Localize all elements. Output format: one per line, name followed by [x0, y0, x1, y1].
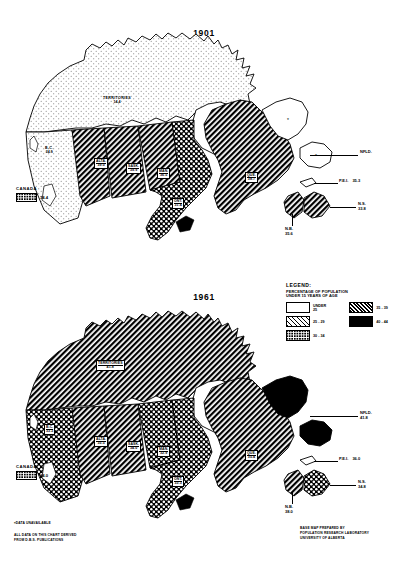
canada-summary-1961: CANADA 34.0	[16, 464, 48, 480]
legend-swatch-40-44	[349, 316, 373, 327]
canada-map-1901: * *	[0, 0, 408, 290]
label-pei-1961: P.E.I. 36.0	[339, 457, 360, 462]
note-base-line3: UNIVERSITY OF ALBERTA	[300, 536, 345, 540]
leader-nb-1961	[292, 492, 293, 504]
note-source-line2: FROM D.B.S. PUBLICATIONS	[14, 538, 63, 542]
great-lakes-1901	[176, 216, 194, 232]
label-alberta-1901: ALTA. 39.0	[94, 158, 108, 169]
asterisk-labrador-1901: *	[287, 117, 289, 123]
label-territories-1961: TERRITORIES 41.8	[96, 360, 125, 371]
label-ontario-1961: ONT. 33.3	[172, 476, 184, 487]
legend-swatch-30-34	[286, 330, 310, 341]
label-nb-1961: N.B. 38.0	[285, 505, 293, 515]
note-base-line1: BASE MAP PREPARED BY	[300, 526, 345, 530]
legend-label-25-29: 25 - 29	[313, 320, 324, 324]
region-new-brunswick-1961	[284, 470, 304, 496]
leader-nfld-1901	[310, 155, 358, 156]
canada-label-1901: CANADA	[16, 186, 48, 191]
label-ns-1901: N.S. 33.8	[358, 202, 366, 212]
label-saskatchewan-1961: SASK. 34.0	[126, 441, 141, 452]
note-data-unavailable: *DATA UNAVAILABLE	[14, 521, 51, 527]
leader-ns-1961	[330, 485, 356, 486]
legend-swatch-under-25	[286, 302, 310, 313]
chart-sheet: 1901	[0, 0, 408, 575]
region-nova-scotia-1901	[304, 192, 330, 218]
label-ns-1961: N.S. 34.8	[358, 480, 366, 490]
canada-summary-1901: CANADA 34.4	[16, 186, 48, 202]
label-quebec-1901: QUE. 38.7	[245, 172, 258, 183]
label-saskatchewan-1901: SASK. 39.9	[126, 163, 141, 174]
leader-pei-1961	[314, 461, 338, 462]
label-nb-1901: N.B. 35.6	[285, 227, 293, 237]
note-data-unavailable-text: DATA UNAVAILABLE	[16, 521, 51, 525]
legend-label-30-34: 30 - 34	[313, 334, 324, 338]
canada-swatch-1961	[16, 471, 37, 480]
label-bc-1961: B.C. 33.2	[44, 424, 55, 435]
note-source-line1: ALL DATA ON THIS CHART DERIVED	[14, 533, 77, 537]
legend-label-40-44: 40 - 44	[376, 320, 387, 324]
legend-label-under-25-line2: 25	[313, 308, 326, 312]
label-nfld-1961: NFLD. 41.8	[360, 411, 372, 421]
legend-entry-30-34: 30 - 34	[286, 330, 342, 341]
legend-title: LEGEND:	[286, 282, 404, 288]
region-new-brunswick-1901	[284, 192, 304, 218]
map-panel-1901: 1901	[0, 0, 408, 290]
legend-label-35-39: 35 - 39	[376, 306, 387, 310]
label-manitoba-1901: MAN. 36.5	[157, 168, 170, 179]
leader-pei-1901	[314, 183, 338, 184]
note-base-map: BASE MAP PREPARED BY POPULATION RESEARCH…	[300, 526, 369, 541]
region-nova-scotia-1961	[304, 470, 330, 496]
legend-swatch-35-39	[349, 302, 373, 313]
leader-nfld-1961	[310, 416, 358, 417]
asterisk-newfoundland-1901: *	[315, 153, 317, 159]
label-alberta-1961: ALTA. 35.5	[94, 436, 108, 447]
legend-entry-35-39: 35 - 39	[349, 302, 404, 313]
canada-label-1961: CANADA	[16, 464, 48, 469]
canada-value-1961: 34.0	[40, 473, 48, 478]
label-bc-1901: B.C. 24.9	[45, 146, 54, 154]
legend-swatch-25-29	[286, 316, 310, 327]
label-pei-1901: P.E.I. 35.3	[339, 179, 360, 184]
legend: LEGEND: PERCENTAGE OF POPULATION UNDER 1…	[286, 282, 404, 341]
leader-nb-1901	[292, 214, 293, 226]
legend-entries: UNDER 25 35 - 39 25 - 29 40 - 44	[286, 302, 404, 341]
legend-entry-under-25: UNDER 25	[286, 302, 342, 313]
legend-entry-40-44: 40 - 44	[349, 316, 404, 327]
label-territories-1901: TERRITORIES 14.4	[103, 96, 131, 104]
note-base-line2: POPULATION RESEARCH LABORATORY	[300, 531, 369, 535]
leader-ns-1901	[330, 207, 356, 208]
great-lakes-1961	[176, 494, 194, 510]
label-ontario-1901: ONT. 31.4	[172, 198, 184, 209]
legend-subtitle-line2: UNDER 15 YEARS OF AGE	[286, 293, 338, 298]
region-newfoundland-island-1961	[300, 420, 332, 446]
canada-value-1901: 34.4	[40, 195, 48, 200]
label-nfld-1901: NFLD.	[360, 150, 372, 155]
legend-entry-25-29: 25 - 29	[286, 316, 342, 327]
canada-swatch-1901	[16, 193, 37, 202]
label-quebec-1961: QUE. 35.4	[245, 450, 258, 461]
note-source: ALL DATA ON THIS CHART DERIVED FROM D.B.…	[14, 533, 77, 543]
label-manitoba-1961: MAN. 32.9	[157, 446, 170, 457]
